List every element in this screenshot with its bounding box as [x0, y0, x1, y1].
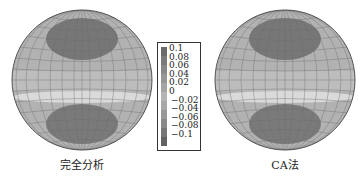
colorbar-legend: 0.1 0.08 0.06 0.04 0.02 0 −0.02 −0.04 −0… [157, 42, 201, 151]
caption-left: 完全分析 [42, 156, 122, 172]
swatch [161, 56, 167, 65]
sphere-plot-left [11, 9, 153, 151]
swatch [161, 137, 167, 146]
swatch [161, 110, 167, 119]
swatch [161, 101, 167, 110]
sphere-plot-right [214, 9, 356, 151]
swatch [161, 74, 167, 83]
swatch [161, 128, 167, 137]
sphere-right-graphic [214, 9, 356, 151]
swatch [161, 119, 167, 128]
colorbar-swatches [161, 47, 167, 146]
swatch [161, 65, 167, 74]
swatch [161, 83, 167, 92]
swatch [161, 92, 167, 101]
caption-right: CA法 [245, 156, 325, 172]
swatch [161, 47, 167, 56]
colorbar-ticks: 0.1 0.08 0.06 0.04 0.02 0 −0.02 −0.04 −0… [169, 44, 199, 139]
tick-label: −0.1 [169, 130, 199, 139]
sphere-left-graphic [11, 9, 153, 151]
